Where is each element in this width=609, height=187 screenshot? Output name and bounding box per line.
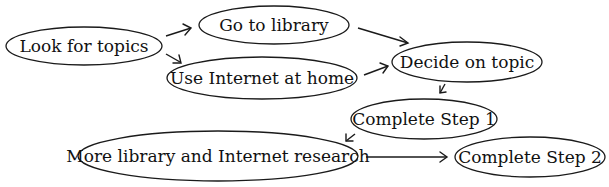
node-more-research: More library and Internet research xyxy=(66,131,369,181)
edge-look-to-library xyxy=(166,24,191,36)
node-label: Look for topics xyxy=(19,36,148,56)
node-label: More library and Internet research xyxy=(66,146,369,166)
edge-more-to-step2 xyxy=(366,152,447,162)
edge-look-to-internet xyxy=(166,54,181,63)
node-use-internet-at-home: Use Internet at home xyxy=(167,57,357,99)
flowchart-diagram: Look for topics Go to library Use Intern… xyxy=(0,0,609,187)
node-label: Use Internet at home xyxy=(170,68,354,88)
node-label: Complete Step 1 xyxy=(352,109,496,129)
edge-internet-to-decide xyxy=(364,63,388,75)
node-go-to-library: Go to library xyxy=(199,6,349,44)
node-decide-on-topic: Decide on topic xyxy=(392,42,542,82)
node-complete-step-2: Complete Step 2 xyxy=(455,137,605,177)
node-label: Go to library xyxy=(219,15,329,35)
node-label: Complete Step 2 xyxy=(458,147,602,167)
node-look-for-topics: Look for topics xyxy=(6,27,162,65)
edge-library-to-decide xyxy=(358,28,408,46)
node-label: Decide on topic xyxy=(400,52,535,72)
node-complete-step-1: Complete Step 1 xyxy=(351,99,497,139)
edge-decide-to-step1 xyxy=(440,84,446,93)
edge-step1-to-more xyxy=(346,134,355,141)
